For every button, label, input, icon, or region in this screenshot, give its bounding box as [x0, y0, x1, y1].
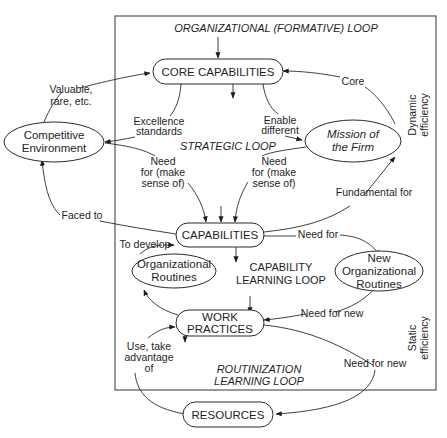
- label-core: Core: [342, 75, 365, 87]
- svg-text:Routines: Routines: [356, 278, 402, 290]
- node-resources: RESOURCES: [183, 402, 273, 427]
- node-capabilities: CAPABILITIES: [176, 223, 264, 247]
- node-work-practices: WORK PRACTICES: [176, 310, 264, 336]
- static-efficiency-label: Static efficiency: [406, 315, 430, 359]
- node-core-capabilities: CORE CAPABILITIES: [153, 59, 283, 84]
- edge-core: [283, 71, 395, 124]
- strategic-loop-label: STRATEGIC LOOP: [180, 140, 276, 152]
- label-enable-different: Enable different: [261, 114, 299, 136]
- svg-text:PRACTICES: PRACTICES: [187, 323, 253, 335]
- svg-text:Dynamic: Dynamic: [406, 95, 418, 136]
- svg-text:Competitive: Competitive: [24, 129, 85, 141]
- svg-text:Valuable,: Valuable,: [49, 83, 92, 95]
- dynamic-efficiency-label: Dynamic efficiency: [406, 92, 430, 136]
- node-competitive-environment: Competitive Environment: [4, 122, 104, 162]
- svg-text:Environment: Environment: [22, 142, 87, 154]
- svg-text:Static: Static: [406, 325, 418, 351]
- node-mission-of-the-firm: Mission of the Firm: [305, 120, 401, 162]
- node-organizational-routines: Organizational Routines: [132, 254, 216, 288]
- svg-text:of: of: [145, 362, 154, 374]
- label-fundamental-for: Fundamental for: [336, 186, 413, 198]
- svg-text:sense of): sense of): [141, 177, 184, 189]
- svg-text:different: different: [261, 124, 299, 136]
- svg-text:LEARNING LOOP: LEARNING LOOP: [214, 375, 305, 387]
- label-need-for-new-resources: Need for new: [344, 357, 407, 369]
- label-need-for-new-routines: Need for new: [301, 307, 364, 319]
- label-excellence-standards: Excellence standards: [134, 115, 185, 137]
- svg-text:CORE CAPABILITIES: CORE CAPABILITIES: [162, 66, 275, 78]
- label-valuable-rare: Valuable, rare, etc.: [49, 83, 92, 107]
- capabilities-loop-diagram: ORGANIZATIONAL (FORMATIVE) LOOP Dynamic …: [0, 0, 447, 438]
- svg-text:RESOURCES: RESOURCES: [192, 409, 265, 421]
- svg-text:Organizational: Organizational: [137, 258, 211, 270]
- svg-text:efficiency: efficiency: [418, 92, 430, 136]
- svg-text:sense of): sense of): [252, 177, 295, 189]
- edge-work-to-routines: [144, 290, 178, 315]
- label-need-for: Need for: [298, 228, 339, 240]
- svg-text:standards: standards: [136, 125, 182, 137]
- svg-text:CAPABILITY: CAPABILITY: [250, 261, 313, 273]
- svg-text:LEARNING LOOP: LEARNING LOOP: [236, 274, 326, 286]
- label-need-make-sense-left: Need for (make sense of): [141, 155, 186, 189]
- svg-text:Organizational: Organizational: [342, 265, 416, 277]
- svg-text:ROUTINIZATION: ROUTINIZATION: [217, 363, 302, 375]
- svg-text:rare, etc.: rare, etc.: [50, 95, 91, 107]
- node-new-organizational-routines: New Organizational Routines: [335, 251, 423, 291]
- label-use-take-advantage: Use, take advantage of: [124, 340, 173, 374]
- label-to-develop: To develop: [120, 238, 171, 250]
- label-need-make-sense-right: Need for (make sense of): [252, 155, 297, 189]
- svg-text:the Firm: the Firm: [332, 141, 375, 153]
- label-faced-to: Faced to: [62, 209, 103, 221]
- svg-text:WORK: WORK: [202, 311, 238, 323]
- routinization-learning-loop-label: ROUTINIZATION LEARNING LOOP: [214, 363, 305, 387]
- svg-text:New: New: [367, 252, 391, 264]
- svg-text:efficiency: efficiency: [418, 315, 430, 359]
- capability-learning-loop-label: CAPABILITY LEARNING LOOP: [236, 261, 326, 286]
- svg-text:CAPABILITIES: CAPABILITIES: [182, 229, 259, 241]
- svg-text:Routines: Routines: [151, 271, 197, 283]
- svg-text:Mission of: Mission of: [327, 128, 381, 140]
- frame-title: ORGANIZATIONAL (FORMATIVE) LOOP: [174, 22, 378, 34]
